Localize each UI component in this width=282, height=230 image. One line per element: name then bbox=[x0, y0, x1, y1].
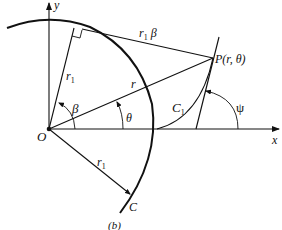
origin-point bbox=[47, 127, 52, 132]
r1-beta-label: r1β bbox=[139, 26, 157, 42]
psi-arc bbox=[206, 91, 238, 129]
theta-label: θ bbox=[126, 111, 132, 125]
x-axis-label: x bbox=[271, 133, 278, 147]
c-label: C bbox=[129, 200, 138, 214]
r-label: r bbox=[131, 77, 136, 91]
radius-r1-lower bbox=[49, 129, 130, 194]
tangent-at-p bbox=[196, 37, 219, 129]
beta-label: β bbox=[71, 101, 79, 116]
theta-arc bbox=[117, 102, 123, 129]
r1-lower-label: r1 bbox=[97, 155, 106, 171]
psi-label: ψ bbox=[236, 100, 244, 115]
y-axis-label: y bbox=[53, 0, 60, 12]
point-p-label: P(r, θ) bbox=[214, 52, 246, 66]
origin-label: O bbox=[37, 129, 47, 144]
figure-caption: (b) bbox=[108, 219, 121, 230]
c1-label: C1 bbox=[172, 100, 185, 117]
involute-diagram: y x O r1 r1β P(r, θ) r β θ ψ C1 r1 C (b) bbox=[0, 0, 282, 230]
r1-upper-label: r1 bbox=[66, 69, 75, 85]
